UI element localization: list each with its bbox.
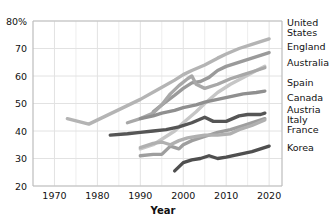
line-chart: 197019801990200020102020 20304050607080%… bbox=[0, 0, 335, 218]
y-tick-label: 20 bbox=[15, 181, 27, 192]
x-tick-label: 1990 bbox=[128, 190, 152, 201]
series-end-label-canada: Canada bbox=[287, 92, 323, 103]
chart-container: 197019801990200020102020 20304050607080%… bbox=[0, 0, 335, 218]
series-end-label-spain: Spain bbox=[287, 77, 314, 88]
x-tick-label: 2010 bbox=[214, 190, 238, 201]
series-end-label-france: France bbox=[287, 124, 319, 135]
series-end-label-australia: Australia bbox=[287, 57, 329, 68]
y-axis-tick-labels: 20304050607080% bbox=[6, 16, 27, 192]
series-line-austria bbox=[110, 113, 265, 135]
y-tick-label: 80% bbox=[6, 16, 27, 27]
y-tick-label: 60 bbox=[15, 71, 27, 82]
y-tick-label: 50 bbox=[15, 98, 27, 109]
y-tick-label: 70 bbox=[15, 43, 27, 54]
x-tick-label: 1970 bbox=[42, 190, 66, 201]
x-axis-tick-labels: 197019801990200020102020 bbox=[42, 190, 281, 201]
y-tick-label: 40 bbox=[15, 126, 27, 137]
x-tick-label: 1980 bbox=[85, 190, 109, 201]
series-end-label-england: England bbox=[287, 41, 326, 52]
series-end-label-korea: Korea bbox=[287, 142, 314, 153]
y-tick-label: 30 bbox=[15, 153, 27, 164]
x-tick-label: 2020 bbox=[257, 190, 281, 201]
series-end-labels: UnitedStatesEnglandAustraliaSpainCanadaA… bbox=[287, 17, 329, 153]
series-end-label-united-states: States bbox=[287, 27, 317, 38]
x-axis-title: Year bbox=[150, 205, 176, 216]
x-tick-label: 2000 bbox=[171, 190, 195, 201]
